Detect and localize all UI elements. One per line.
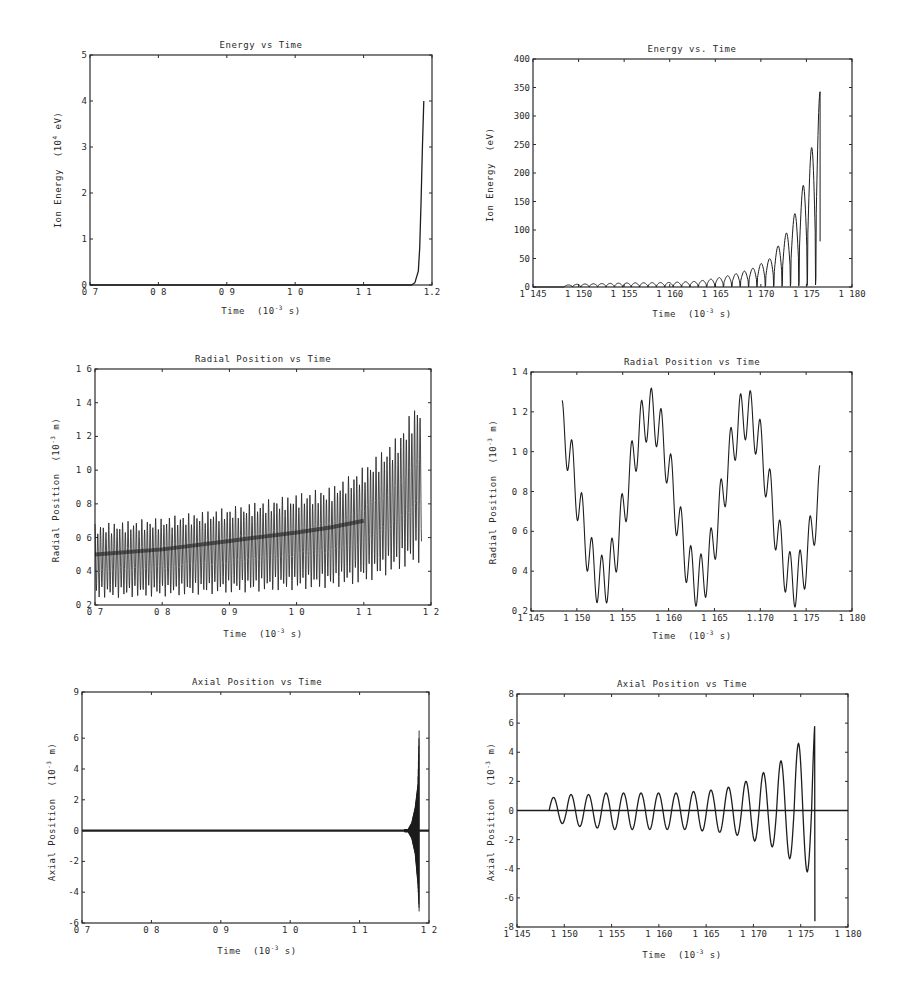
plot-area <box>0 0 916 994</box>
y-tick-label: 0 <box>509 806 517 816</box>
x-tick-label: 1 175 <box>787 929 814 939</box>
y-tick-label: -2 <box>503 835 517 845</box>
y-tick-label: -8 <box>503 922 517 932</box>
data-line <box>549 726 815 921</box>
y-tick-label: 6 <box>509 718 517 728</box>
y-tick-label: 2 <box>509 776 517 786</box>
y-tick-label: -6 <box>503 893 517 903</box>
y-tick-label: -4 <box>503 864 517 874</box>
y-tick-label: 4 <box>509 747 517 757</box>
x-tick-label: 1 150 <box>551 929 578 939</box>
x-tick-label: 1 155 <box>598 929 625 939</box>
x-tick-label: 1 165 <box>693 929 720 939</box>
x-tick-label: 1 170 <box>740 929 767 939</box>
x-tick-label: 1 180 <box>834 929 861 939</box>
y-axis-label: Axial Position (10-3 m) <box>484 743 496 881</box>
panel-axial-zoom: Axial Position vs Time Time (10-3 s) Axi… <box>0 0 916 994</box>
x-axis-label: Time (10-3 s) <box>642 948 721 960</box>
x-tick-label: 1 160 <box>645 929 672 939</box>
y-tick-label: 8 <box>509 689 517 699</box>
